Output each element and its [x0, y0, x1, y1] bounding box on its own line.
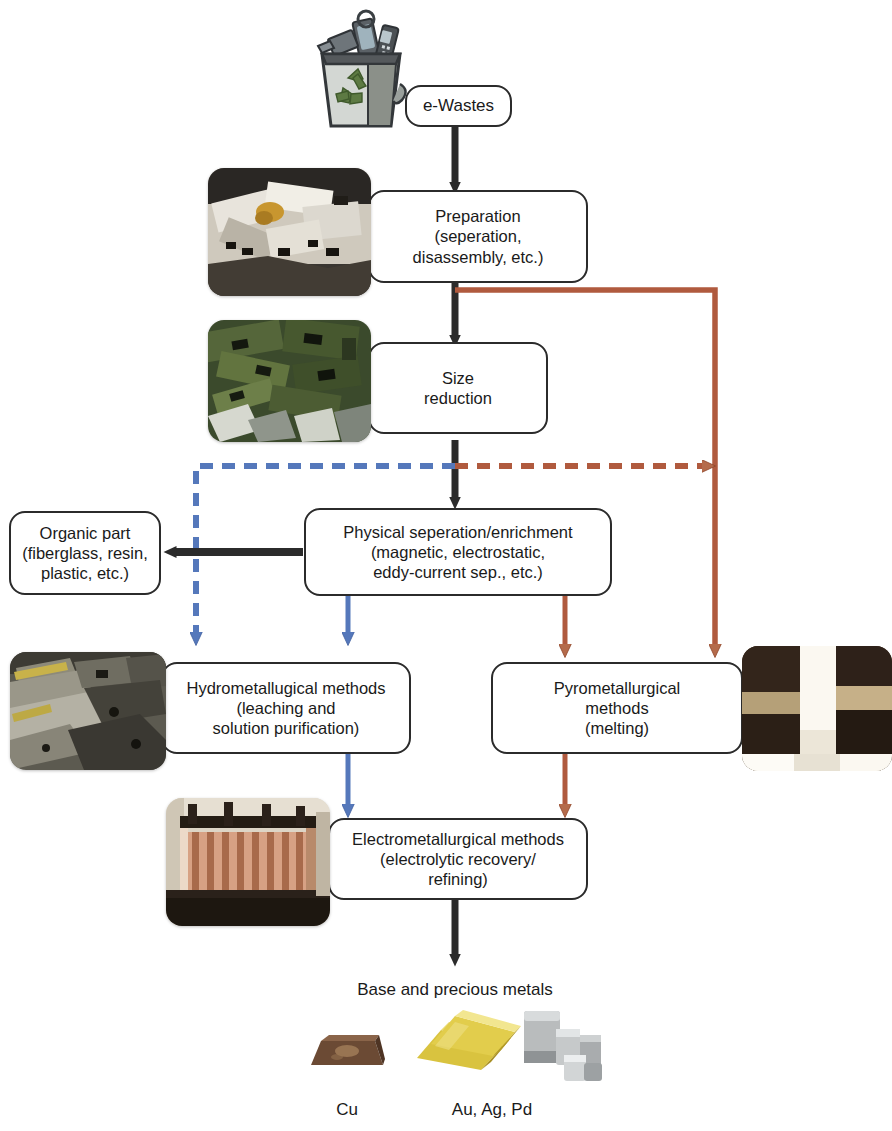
product-label-precious: Au, Ag, Pd: [406, 1100, 578, 1120]
node-pyrometallurgical[interactable]: Pyrometallurgical methods (melting): [491, 662, 743, 754]
node-electrometallurgical[interactable]: Electrometallurgical methods (electrolyt…: [328, 818, 588, 900]
node-ewastes-label: e-Wastes: [423, 96, 494, 117]
product-label-cu: Cu: [282, 1100, 412, 1120]
node-physical-separation-label: Physical seperation/enrichment (magnetic…: [343, 522, 572, 582]
electrolytic-cells-photo: [166, 798, 330, 926]
node-organic-part[interactable]: Organic part (fiberglass, resin, plastic…: [9, 511, 161, 595]
gold-bars-icon: [411, 1010, 521, 1074]
node-pyrometallurgical-label: Pyrometallurgical methods (melting): [554, 678, 681, 738]
node-physical-separation[interactable]: Physical seperation/enrichment (magnetic…: [304, 508, 612, 596]
node-preparation-label: Preparation (seperation, disassembly, et…: [413, 206, 544, 266]
node-size-reduction[interactable]: Size reduction: [368, 342, 548, 434]
output-heading: Base and precious metals: [305, 980, 605, 1000]
disassembled-electronics-photo: [208, 168, 371, 296]
ewaste-recycling-bin-icon: [296, 6, 424, 134]
node-preparation[interactable]: Preparation (seperation, disassembly, et…: [368, 190, 588, 283]
shredded-circuit-boards-photo: [208, 320, 371, 442]
copper-ingot-icon: [307, 1025, 387, 1073]
node-size-reduction-label: Size reduction: [424, 368, 492, 408]
node-electrometallurgical-label: Electrometallurgical methods (electrolyt…: [352, 829, 564, 889]
flowchart-canvas: e-Wastes Preparation (seperation, disass…: [0, 0, 892, 1131]
molten-furnace-photo: [742, 646, 892, 771]
silver-nuggets-icon: [520, 1005, 605, 1083]
node-hydrometallurgical[interactable]: Hydrometallugical methods (leaching and …: [161, 662, 411, 754]
node-organic-part-label: Organic part (fiberglass, resin, plastic…: [22, 523, 148, 583]
leaching-plant-photo: [10, 652, 166, 770]
node-hydrometallurgical-label: Hydrometallugical methods (leaching and …: [186, 678, 385, 738]
